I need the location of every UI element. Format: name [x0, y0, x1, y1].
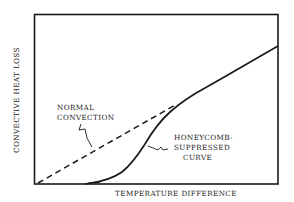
honeycomb-leader-arrow: [148, 146, 168, 150]
normal-convection-label-line1: NORMAL: [57, 103, 94, 112]
normal-convection-leader-arrow: [79, 124, 92, 147]
y-axis-label: CONVECTIVE HEAT LOSS: [12, 47, 21, 153]
normal-convection-label-line2: CONVECTION: [57, 113, 114, 122]
x-axis-label: TEMPERATURE DIFFERENCE: [115, 189, 237, 198]
chart: CONVECTIVE HEAT LOSS TEMPERATURE DIFFERE…: [0, 0, 294, 202]
honeycomb-label-line3: CURVE: [183, 153, 212, 162]
honeycomb-suppressed-curve: [88, 46, 278, 184]
honeycomb-label-line1: HONEYCOMB-: [174, 133, 233, 142]
plot-frame: [35, 15, 279, 185]
honeycomb-label-line2: SUPPRESSED: [174, 143, 230, 152]
